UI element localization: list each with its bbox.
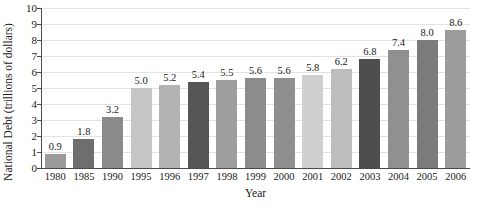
x-axis-tick-labels: 1980198519901995199619971998199920002001… (41, 170, 470, 186)
bar (245, 78, 266, 168)
x-tick-label: 2000 (270, 170, 299, 184)
bar-value-label: 5.6 (278, 65, 291, 76)
bar-group: 0.9 (45, 8, 66, 168)
bar (388, 50, 409, 168)
y-tick-label: 6 (7, 67, 37, 78)
bar (73, 139, 94, 168)
bar-value-label: 3.2 (106, 104, 119, 115)
bar-value-label: 5.0 (135, 75, 148, 86)
x-tick-label: 1995 (127, 170, 156, 184)
bar-value-label: 5.4 (192, 69, 205, 80)
bar (445, 30, 466, 168)
bar-group: 5.6 (245, 8, 266, 168)
bar-group: 5.4 (188, 8, 209, 168)
bar-group: 8.6 (445, 8, 466, 168)
bar-value-label: 5.5 (220, 67, 233, 78)
bar-group: 6.8 (359, 8, 380, 168)
bar (274, 78, 295, 168)
x-tick-label: 1980 (41, 170, 70, 184)
x-tick-label: 1990 (98, 170, 127, 184)
bar (216, 80, 237, 168)
y-tick-label: 8 (7, 35, 37, 46)
bar-group: 3.2 (102, 8, 123, 168)
bar-value-label: 5.6 (249, 65, 262, 76)
y-tick-label: 4 (7, 99, 37, 110)
bar (188, 82, 209, 168)
bar (417, 40, 438, 168)
x-tick-label: 1996 (155, 170, 184, 184)
bar-value-label: 5.8 (306, 62, 319, 73)
x-tick-label: 2001 (298, 170, 327, 184)
bar-value-label: 1.8 (77, 126, 90, 137)
bar-chart: National Debt (trillions of dollars) 012… (0, 0, 478, 212)
y-tick-label: 0 (7, 163, 37, 174)
bar-group: 6.2 (331, 8, 352, 168)
x-tick-label: 1985 (70, 170, 99, 184)
y-axis-tick-labels: 012345678910 (3, 8, 37, 169)
bar (102, 117, 123, 168)
bar-value-label: 5.2 (163, 72, 176, 83)
x-tick-label: 2006 (441, 170, 470, 184)
bar-group: 5.2 (159, 8, 180, 168)
y-tick-label: 10 (7, 3, 37, 14)
bar (302, 75, 323, 168)
bar-value-label: 8.0 (421, 27, 434, 38)
bar (159, 85, 180, 168)
y-tick-label: 7 (7, 51, 37, 62)
bar-value-label: 0.9 (49, 141, 62, 152)
bar (331, 69, 352, 168)
bar-value-label: 7.4 (392, 37, 405, 48)
bars-layer: 0.91.83.25.05.25.45.55.65.65.86.26.87.48… (41, 8, 470, 168)
bar-group: 5.6 (274, 8, 295, 168)
x-tick-label: 2003 (356, 170, 385, 184)
y-tick-label: 3 (7, 115, 37, 126)
y-tick-label: 2 (7, 131, 37, 142)
bar-value-label: 6.8 (363, 46, 376, 57)
x-axis-title: Year (41, 186, 470, 200)
bar-group: 1.8 (73, 8, 94, 168)
bar (131, 88, 152, 168)
y-tick-mark (37, 168, 41, 169)
x-tick-label: 2002 (327, 170, 356, 184)
y-tick-label: 5 (7, 83, 37, 94)
bar (359, 59, 380, 168)
x-tick-label: 1997 (184, 170, 213, 184)
y-tick-label: 1 (7, 147, 37, 158)
x-tick-label: 1999 (241, 170, 270, 184)
bar-group: 7.4 (388, 8, 409, 168)
bar-group: 5.8 (302, 8, 323, 168)
x-tick-label: 2005 (413, 170, 442, 184)
x-tick-label: 1998 (213, 170, 242, 184)
y-tick-label: 9 (7, 19, 37, 30)
bar-group: 8.0 (417, 8, 438, 168)
x-axis-line (41, 168, 470, 169)
bar-value-label: 8.6 (449, 17, 462, 28)
x-tick-label: 2004 (384, 170, 413, 184)
bar-group: 5.0 (131, 8, 152, 168)
bar-value-label: 6.2 (335, 56, 348, 67)
bar (45, 154, 66, 168)
bar-group: 5.5 (216, 8, 237, 168)
